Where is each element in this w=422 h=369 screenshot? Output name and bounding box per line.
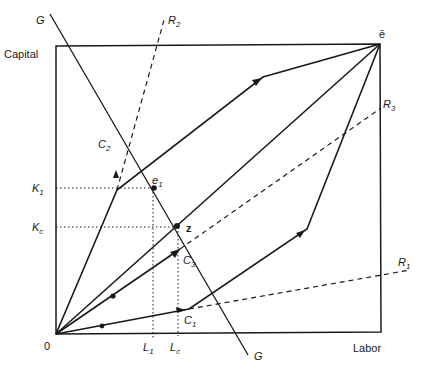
arrow-c1-upper	[296, 230, 305, 238]
g-label-top: G	[36, 14, 45, 26]
arrow-c2-lower	[113, 170, 119, 178]
line-g	[50, 14, 248, 355]
point-e1	[151, 185, 157, 191]
k1-label: K1	[32, 182, 44, 197]
z-label: z	[186, 222, 192, 234]
corner-ebar-label: ē	[379, 28, 385, 40]
ray-r1	[189, 270, 410, 309]
diagonal-origin-to-ebar	[56, 44, 380, 334]
c3-label: C3	[183, 254, 196, 269]
r3-label: R3	[383, 98, 396, 113]
x-axis-label: Labor	[353, 342, 381, 354]
dot-c1	[100, 324, 105, 329]
y-axis-label: Capital	[4, 48, 38, 60]
c2-label: C2	[98, 138, 111, 153]
arrow-c3	[170, 249, 180, 258]
arrow-c1	[176, 307, 186, 313]
origin-label: 0	[44, 340, 50, 352]
ray-r3	[180, 108, 381, 249]
lc-label: Lc	[170, 341, 180, 356]
edgeworth-box-diagram: Capital Labor 0 ē G G R2 R3 R1 C2 C3 C1 …	[0, 0, 422, 369]
kc-label: Kc	[32, 221, 43, 236]
dot-c3	[110, 293, 115, 298]
point-z	[174, 223, 180, 229]
r1-label: R1	[398, 256, 410, 271]
l1-label: L1	[143, 341, 154, 356]
g-label-bottom: G	[254, 350, 263, 362]
c1-label: C1	[184, 314, 196, 329]
r2-label: R2	[168, 14, 181, 29]
